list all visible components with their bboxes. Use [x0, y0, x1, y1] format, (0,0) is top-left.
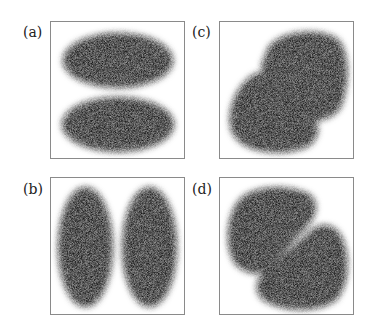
lobes-vertical	[51, 178, 184, 314]
panel-label-b: (b)	[23, 181, 43, 197]
panel-b	[50, 177, 185, 315]
panel-a	[50, 21, 185, 159]
panel-d	[219, 177, 354, 315]
panel-c	[219, 21, 354, 159]
panel-label-a: (a)	[23, 24, 42, 40]
lobes-horizontal	[51, 22, 184, 158]
lobes-diagonal	[220, 178, 353, 314]
lobes-anti-diagonal	[220, 22, 353, 158]
panel-label-d: (d)	[192, 181, 212, 197]
panel-label-c: (c)	[192, 24, 211, 40]
